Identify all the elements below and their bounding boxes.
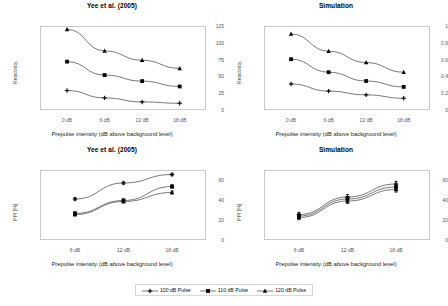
legend-item[interactable]: 110 dB Pulse: [200, 287, 248, 293]
legend-marker-triangle-icon: [257, 288, 273, 293]
legend-item[interactable]: 120 dB Pulse: [257, 287, 306, 293]
legend: 100 dB Pulse110 dB Pulse120 dB Pulse: [0, 284, 448, 296]
data-series: [65, 88, 182, 105]
data-series: [73, 190, 174, 216]
panel-title: Simulation: [224, 146, 448, 153]
data-series: [289, 32, 406, 74]
legend-item[interactable]: 100 dB Pulse: [142, 287, 191, 293]
panel-title: Yee et al. (2005): [0, 146, 224, 153]
legend-marker-cross-icon: [142, 288, 158, 293]
data-series: [73, 172, 174, 201]
legend-item-label: 120 dB Pulse: [275, 287, 306, 293]
figure-canvas: Yee et al. (2005) 02550751001250 dB6 dB1…: [0, 0, 448, 306]
data-series: [65, 27, 182, 70]
legend-marker-square-icon: [200, 288, 216, 293]
legend-item-label: 100 dB Pulse: [160, 287, 191, 293]
data-series: [65, 60, 181, 89]
legend-item-label: 110 dB Pulse: [218, 287, 248, 293]
plot-area: 02040606 dB12 dB18 dBPPI [%]Prepulse int…: [0, 162, 224, 280]
series-layer: [224, 162, 448, 280]
panel-title: Simulation: [224, 2, 448, 9]
legend-inner: 100 dB Pulse110 dB Pulse120 dB Pulse: [135, 284, 313, 296]
plot-area: 00.20.40.60.810 dB6 dB12 dB18 dBReactivi…: [224, 18, 448, 150]
panel-top-left: Yee et al. (2005) 02550751001250 dB6 dB1…: [0, 2, 224, 150]
plot-area: 02550751001250 dB6 dB12 dB18 dBReactivit…: [0, 18, 224, 150]
panel-top-right: Simulation 00.20.40.60.810 dB6 dB12 dB18…: [224, 2, 448, 150]
data-series: [289, 57, 405, 89]
plot-area: 02040606 dB12 dB18 dBPPI [%]Prepulse int…: [224, 162, 448, 280]
panel-bottom-right: Simulation 02040606 dB12 dB18 dBPPI [%]P…: [224, 146, 448, 280]
panel-bottom-left: Yee et al. (2005) 02040606 dB12 dB18 dBP…: [0, 146, 224, 280]
series-layer: [0, 18, 224, 150]
panel-title: Yee et al. (2005): [0, 2, 224, 9]
series-layer: [224, 18, 448, 150]
series-layer: [0, 162, 224, 280]
data-series: [297, 187, 398, 220]
